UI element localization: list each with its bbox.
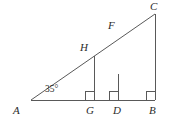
right-angle-G-icon — [85, 91, 94, 100]
vertex-label-C: C — [150, 1, 157, 12]
right-angle-B-icon — [146, 91, 155, 100]
vertex-label-G: G — [86, 105, 94, 116]
angle-label-A: 35° — [45, 85, 58, 95]
vertex-label-D: D — [113, 105, 121, 116]
right-angle-D-icon — [109, 91, 118, 100]
interior-altitudes — [94, 56, 118, 100]
vertex-label-F: F — [108, 20, 115, 31]
vertex-label-B: B — [149, 105, 156, 116]
vertex-label-H: H — [80, 42, 88, 53]
right-angle-marks — [85, 91, 155, 100]
vertex-label-A: A — [13, 105, 20, 116]
geometry-figure: A B C D F G H 35° — [0, 0, 175, 123]
